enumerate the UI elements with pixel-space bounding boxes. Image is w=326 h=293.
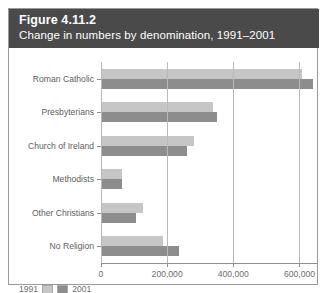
category-label: Roman Catholic: [33, 74, 94, 84]
bar-2001: [102, 213, 136, 223]
gridline: [167, 62, 168, 263]
bar-group: Church of Ireland: [101, 136, 316, 156]
x-tick-mark: [299, 263, 300, 267]
category-label: Other Christians: [32, 208, 94, 218]
legend-label-2001: 2001: [72, 284, 91, 293]
bar-group: Presbyterians: [101, 102, 316, 122]
bar-1991: [102, 203, 143, 213]
legend-swatch-2001: [57, 285, 68, 293]
category-label: No Religion: [50, 241, 94, 251]
x-tick-mark: [167, 263, 168, 267]
bar-1991: [102, 236, 163, 246]
bar-2001: [102, 146, 187, 156]
x-tick-mark: [233, 263, 234, 267]
x-tick-label: 0: [99, 269, 104, 279]
figure-container: Figure 4.11.2 Change in numbers by denom…: [0, 0, 326, 293]
figure-card: Figure 4.11.2 Change in numbers by denom…: [8, 8, 318, 285]
category-label: Methodists: [52, 174, 94, 184]
legend-label-1991: 1991: [19, 284, 38, 293]
bar-1991: [102, 169, 122, 179]
plot-area: Roman CatholicPresbyteriansChurch of Ire…: [9, 48, 319, 286]
bar-1991: [102, 102, 213, 112]
legend-swatch-1991: [42, 285, 53, 293]
bar-1991: [102, 136, 194, 146]
gridline: [299, 62, 300, 263]
category-label: Presbyterians: [41, 107, 94, 117]
figure-header: Figure 4.11.2 Change in numbers by denom…: [9, 9, 319, 48]
gridline: [233, 62, 234, 263]
bar-2001: [102, 79, 313, 89]
chart-legend: 1991 2001: [19, 284, 91, 293]
figure-subtitle: Change in numbers by denomination, 1991–…: [19, 28, 319, 43]
x-tick-label: 600,000: [284, 269, 315, 279]
x-tick-mark: [101, 263, 102, 267]
x-axis-line: [101, 263, 317, 264]
bars-region: Roman CatholicPresbyteriansChurch of Ire…: [101, 62, 316, 263]
bar-1991: [102, 69, 302, 79]
category-label: Church of Ireland: [28, 141, 94, 151]
x-tick-label: 400,000: [218, 269, 249, 279]
figure-title: Figure 4.11.2: [19, 13, 319, 28]
bar-2001: [102, 179, 122, 189]
bar-2001: [102, 112, 217, 122]
bar-group: No Religion: [101, 236, 316, 256]
bar-group: Methodists: [101, 169, 316, 189]
gridline: [101, 62, 102, 263]
bar-group: Other Christians: [101, 203, 316, 223]
bar-group: Roman Catholic: [101, 69, 316, 89]
x-tick-label: 200,000: [152, 269, 183, 279]
